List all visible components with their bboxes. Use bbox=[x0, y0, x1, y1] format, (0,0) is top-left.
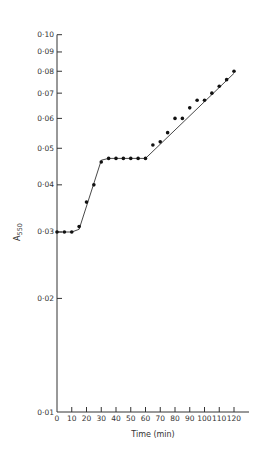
y-axis-label: A550 bbox=[13, 223, 24, 241]
svg-text:A550: A550 bbox=[13, 223, 24, 241]
data-point bbox=[166, 131, 170, 135]
data-point bbox=[114, 157, 118, 161]
data-point bbox=[188, 106, 192, 110]
data-point bbox=[151, 143, 155, 147]
data-point bbox=[144, 157, 148, 161]
x-tick-label: 70 bbox=[155, 414, 165, 423]
data-point bbox=[70, 230, 74, 234]
data-point bbox=[63, 230, 67, 234]
fit-line bbox=[57, 73, 234, 232]
y-axis-label-subscript: 550 bbox=[16, 223, 24, 235]
x-tick-label: 80 bbox=[170, 414, 180, 423]
y-tick-label: 0·08 bbox=[37, 67, 54, 76]
data-point bbox=[92, 183, 96, 187]
data-point bbox=[173, 117, 177, 121]
x-tick-label: 10 bbox=[67, 414, 77, 423]
x-tick-label: 100 bbox=[197, 414, 212, 423]
data-point bbox=[225, 78, 229, 82]
data-point bbox=[55, 230, 59, 234]
fitted-curve bbox=[57, 73, 234, 232]
y-axis-ticks: 0·010·020·030·040·050·060·070·080·090·10 bbox=[37, 30, 62, 416]
y-tick-label: 0·02 bbox=[37, 294, 54, 303]
x-tick-label: 90 bbox=[185, 414, 195, 423]
data-point bbox=[210, 91, 214, 95]
x-axis-label: Time (min) bbox=[130, 430, 174, 439]
x-axis-ticks: 0102030405060708090100110120 bbox=[55, 407, 242, 423]
data-point bbox=[99, 160, 103, 164]
data-point bbox=[217, 84, 221, 88]
y-tick-label: 0·10 bbox=[37, 30, 54, 39]
data-point bbox=[158, 140, 162, 144]
y-tick-label: 0·01 bbox=[37, 408, 54, 417]
axes bbox=[57, 35, 249, 412]
data-point bbox=[129, 157, 133, 161]
y-tick-label: 0·09 bbox=[37, 47, 54, 56]
x-tick-label: 60 bbox=[141, 414, 151, 423]
data-point bbox=[107, 157, 111, 161]
x-tick-label: 30 bbox=[96, 414, 106, 423]
x-tick-label: 0 bbox=[55, 414, 60, 423]
data-point bbox=[232, 69, 236, 73]
x-tick-label: 110 bbox=[212, 414, 227, 423]
x-tick-label: 50 bbox=[126, 414, 136, 423]
chart-figure: 0102030405060708090100110120 0·010·020·0… bbox=[0, 0, 266, 463]
y-tick-label: 0·06 bbox=[37, 114, 54, 123]
y-tick-label: 0·03 bbox=[37, 227, 54, 236]
data-point bbox=[195, 99, 199, 103]
data-point bbox=[122, 157, 126, 161]
x-tick-label: 40 bbox=[111, 414, 121, 423]
data-point bbox=[77, 225, 81, 229]
data-point bbox=[203, 99, 207, 103]
y-tick-label: 0·05 bbox=[37, 144, 54, 153]
x-tick-label: 20 bbox=[82, 414, 92, 423]
y-tick-label: 0·07 bbox=[37, 89, 54, 98]
data-points bbox=[55, 69, 236, 233]
y-tick-label: 0·04 bbox=[37, 180, 54, 189]
data-point bbox=[85, 200, 89, 204]
data-point bbox=[136, 157, 140, 161]
data-point bbox=[181, 117, 185, 121]
x-tick-label: 120 bbox=[227, 414, 242, 423]
